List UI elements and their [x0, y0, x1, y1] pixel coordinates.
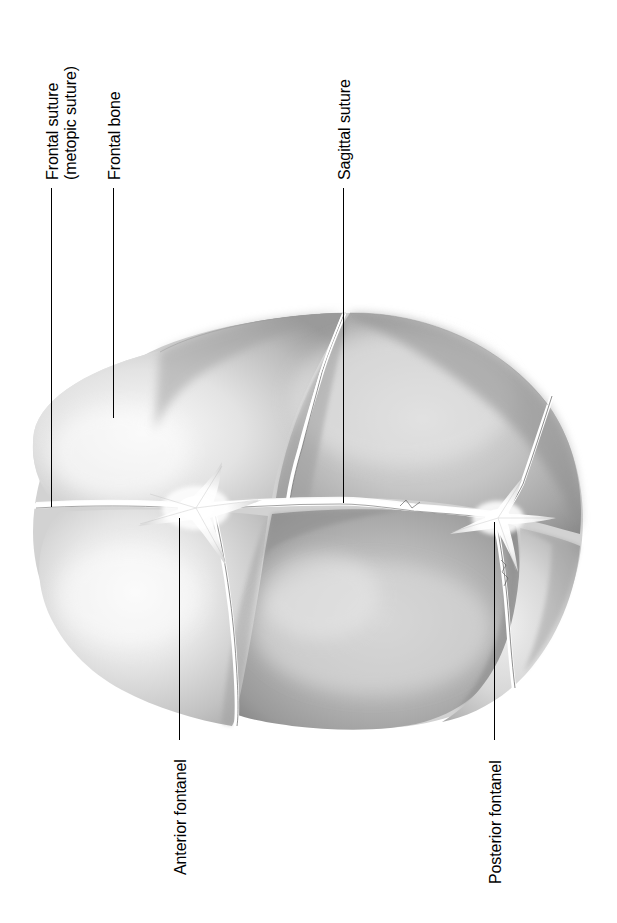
- leader-line-frontal-suture: [51, 188, 52, 507]
- label-posterior-fontanel: Posterior fontanel: [488, 760, 504, 884]
- label-frontal-suture-line1: Frontal suture: [45, 83, 61, 180]
- leader-line-frontal-bone: [113, 188, 114, 418]
- label-frontal-bone: Frontal bone: [107, 91, 123, 180]
- label-frontal-suture-line2: (metopic suture): [63, 66, 79, 180]
- leader-line-sagittal-suture: [343, 188, 344, 503]
- leader-line-posterior-fontanel: [494, 522, 495, 740]
- label-sagittal-suture: Sagittal suture: [337, 79, 353, 180]
- fetal-skull-illustration: [0, 0, 617, 923]
- left-frontal-bone-lower: [39, 510, 268, 726]
- leader-line-anterior-fontanel: [179, 518, 180, 740]
- figure-page: Frontal suture (metopic suture) Frontal …: [0, 0, 617, 923]
- label-anterior-fontanel: Anterior fontanel: [173, 759, 189, 875]
